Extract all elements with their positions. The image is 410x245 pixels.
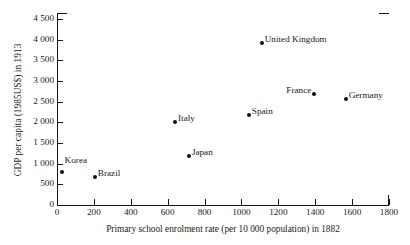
y-axis-label: GDP per capita (1985US$) in 1913 — [13, 10, 23, 210]
y-tick-label: 3 000 — [33, 75, 54, 85]
x-tick-label: 600 — [161, 207, 175, 217]
data-point-label: France — [286, 85, 311, 95]
x-tick — [241, 199, 242, 205]
x-tick — [352, 199, 353, 205]
data-point-spain[interactable]: Spain — [247, 113, 251, 117]
y-tick-label: 0 — [49, 199, 54, 209]
x-tick — [131, 199, 132, 205]
y-tick: 4 500 — [58, 19, 63, 20]
y-tick: 1 000 — [58, 164, 63, 165]
x-axis-line — [57, 205, 389, 206]
x-tick — [205, 199, 206, 205]
data-point-japan[interactable]: Japan — [187, 154, 191, 158]
data-point-brazil[interactable]: Brazil — [93, 175, 97, 179]
x-tick-label: 1400 — [306, 207, 324, 217]
x-axis-label: Primary school enrolment rate (per 10 00… — [57, 224, 389, 234]
y-tick-label: 4 000 — [33, 34, 54, 44]
y-tick: 3 500 — [58, 60, 63, 61]
data-point-label: Spain — [252, 106, 273, 116]
data-point-label: Brazil — [98, 168, 120, 178]
data-point-label: Italy — [178, 113, 195, 123]
top-right-frame-tick — [379, 13, 389, 14]
x-tick-label: 1200 — [269, 207, 287, 217]
y-tick: 500 — [58, 184, 63, 185]
y-tick: 1 500 — [58, 143, 63, 144]
y-tick: 2 500 — [58, 102, 63, 103]
y-tick-label: 1 500 — [33, 137, 54, 147]
x-tick-label: 1000 — [232, 207, 250, 217]
scatter-chart-figure: GDP per capita (1985US$) in 1913 05001 0… — [0, 0, 410, 245]
y-tick: 3 000 — [58, 81, 63, 82]
data-point-label: Germany — [349, 90, 383, 100]
y-axis-line — [57, 13, 58, 206]
y-tick: 4 000 — [58, 40, 63, 41]
data-point-italy[interactable]: Italy — [173, 120, 177, 124]
data-point-united-kingdom[interactable]: United Kingdom — [260, 41, 264, 45]
y-tick-label: 1 000 — [33, 158, 54, 168]
x-tick — [389, 199, 390, 205]
y-tick: 2 000 — [58, 122, 63, 123]
x-tick-label: 1800 — [380, 207, 398, 217]
x-tick-label: 400 — [124, 207, 138, 217]
top-left-frame-tick — [57, 13, 67, 14]
x-tick — [57, 199, 58, 205]
x-tick — [94, 199, 95, 205]
y-tick: 0 — [58, 205, 63, 206]
data-point-france[interactable]: France — [312, 92, 316, 96]
data-point-label: Japan — [192, 147, 213, 157]
data-point-germany[interactable]: Germany — [344, 97, 348, 101]
x-tick-label: 0 — [55, 207, 60, 217]
data-point-label: Korea — [65, 155, 87, 165]
x-tick-label: 800 — [198, 207, 212, 217]
y-tick-label: 3 500 — [33, 54, 54, 64]
x-tick-label: 200 — [87, 207, 101, 217]
data-point-label: United Kingdom — [265, 34, 327, 44]
plot-area: 05001 0001 5002 0002 5003 0003 5004 0004… — [57, 13, 389, 206]
x-tick — [278, 199, 279, 205]
x-tick-label: 1600 — [343, 207, 361, 217]
x-tick — [315, 199, 316, 205]
y-tick-label: 500 — [40, 178, 54, 188]
y-tick-label: 4 500 — [33, 13, 54, 23]
y-tick-label: 2 000 — [33, 116, 54, 126]
data-point-korea[interactable]: Korea — [60, 170, 64, 174]
y-tick-label: 2 500 — [33, 96, 54, 106]
x-tick — [168, 199, 169, 205]
